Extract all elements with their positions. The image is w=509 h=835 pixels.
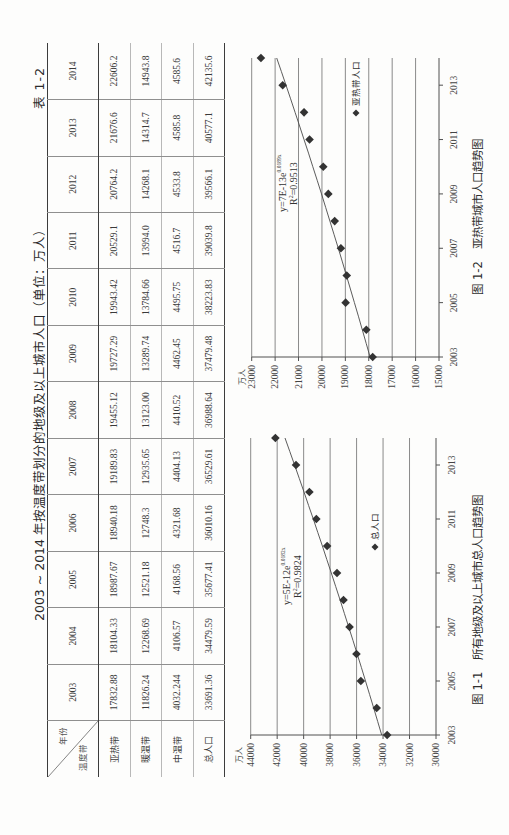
equation-base: y=7E-13e (277, 172, 288, 212)
x-tick-label: 2005 (447, 671, 457, 690)
chart-figure-2: 1500016000170001800019000200002100022000… (238, 54, 486, 389)
figure-caption: 图 1-2亚热带城市人口趋势图 (471, 139, 485, 294)
diamond-data-point (337, 244, 346, 253)
r-superscript: 2 (288, 195, 294, 198)
diamond-data-point (278, 81, 287, 90)
diamond-data-point (305, 135, 314, 144)
diamond-data-point (357, 677, 366, 686)
y-tick-label: 38000 (325, 743, 335, 767)
diamond-data-point (339, 596, 348, 605)
y-tick-label: 18000 (364, 365, 374, 389)
diamond-data-point (352, 650, 361, 659)
charts-layer: 3000032000340003600038000400004200044000… (0, 0, 509, 835)
diamond-data-point (257, 54, 266, 63)
y-tick-label: 21000 (294, 365, 304, 389)
y-tick-label: 40000 (299, 743, 309, 767)
y-tick-label: 15000 (434, 365, 444, 389)
diamond-data-point (324, 190, 333, 199)
r-squared-label: R2=0.9513 (288, 162, 299, 205)
figure-title: 所有地级及以上城市总人口趋势图 (471, 495, 485, 660)
r-squared-value: =0.9824 (292, 555, 303, 588)
diamond-data-point (305, 488, 314, 497)
y-tick-label: 32000 (405, 743, 415, 767)
y-tick-label: 44000 (246, 743, 256, 767)
diamond-data-point (312, 515, 321, 524)
diamond-data-point (383, 731, 392, 740)
r-superscript: 2 (292, 588, 298, 591)
chart-legend: 亚热带人口 (351, 61, 361, 117)
document-page: 表 1-2 2003 ~ 2014 年按温度带划分的地级及以上城市人口（单位：万… (0, 0, 509, 835)
chart-figure-1: 3000032000340003600038000400004200044000… (235, 434, 486, 767)
y-tick-label: 16000 (411, 365, 421, 389)
x-tick-label: 2009 (449, 184, 459, 203)
chart-legend: 总人口 (370, 513, 380, 551)
equation-exponent: 0.0182x (280, 547, 286, 565)
y-tick-label: 30000 (431, 743, 441, 767)
diamond-data-point (372, 704, 381, 713)
y-tick-label: 20000 (317, 365, 327, 389)
y-tick-label: 42000 (272, 743, 282, 767)
x-tick-label: 2013 (447, 455, 457, 474)
figure-caption: 图 1-1所有地级及以上城市总人口趋势图 (471, 495, 485, 705)
y-tick-label: 17000 (387, 365, 397, 389)
figure-number: 图 1-2 (471, 261, 485, 294)
diamond-data-point (342, 271, 351, 280)
r-squared-label: R2=0.9824 (292, 555, 303, 598)
y-axis-unit-label: 万人 (238, 369, 247, 385)
diamond-data-point (333, 569, 342, 578)
y-tick-label: 36000 (352, 743, 362, 767)
x-tick-label: 2007 (449, 239, 459, 258)
legend-diamond-icon (372, 544, 379, 551)
diamond-data-point (341, 298, 350, 307)
y-axis-unit-label: 万人 (235, 747, 244, 763)
x-tick-label: 2007 (447, 617, 457, 636)
x-tick-label: 2011 (447, 509, 457, 528)
diamond-data-point (292, 461, 301, 470)
equation-exponent: 0.0189x (276, 154, 282, 172)
legend-label: 亚热带人口 (351, 61, 361, 106)
legend-label: 总人口 (370, 513, 380, 540)
y-tick-label: 34000 (378, 743, 388, 767)
trendline-equation: y=5E-12e0.0182x (280, 547, 292, 605)
y-tick-label: 22000 (270, 365, 280, 389)
r-squared-value: =0.9513 (288, 162, 299, 195)
r-symbol: R (292, 591, 303, 598)
trendline-equation: y=7E-13e0.0189x (276, 154, 288, 212)
diamond-data-point (271, 434, 280, 443)
figure-title: 亚热带城市人口趋势图 (471, 139, 485, 249)
figure-number: 图 1-1 (471, 672, 485, 705)
diamond-data-point (330, 217, 339, 226)
diamond-data-point (319, 162, 328, 171)
legend-diamond-icon (353, 110, 360, 117)
y-tick-label: 23000 (247, 365, 257, 389)
diamond-data-point (300, 108, 309, 117)
y-tick-label: 19000 (340, 365, 350, 389)
x-tick-label: 2005 (449, 293, 459, 312)
x-tick-label: 2003 (447, 725, 457, 744)
x-tick-label: 2003 (449, 347, 459, 366)
x-tick-label: 2013 (449, 75, 459, 94)
x-tick-label: 2009 (447, 563, 457, 582)
equation-base: y=5E-12e (281, 565, 292, 605)
r-symbol: R (288, 198, 299, 205)
x-tick-label: 2011 (449, 130, 459, 149)
diamond-data-point (345, 623, 354, 632)
